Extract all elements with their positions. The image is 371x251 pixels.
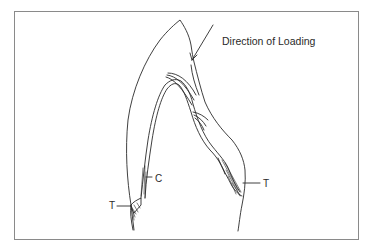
compression-label: C bbox=[155, 174, 162, 184]
direction-arrow bbox=[192, 25, 213, 60]
tooth-outer-outline bbox=[127, 20, 246, 231]
direction-of-loading-label: Direction of Loading bbox=[222, 36, 315, 47]
tension-label-right: T bbox=[263, 179, 269, 189]
tension-hatch-right bbox=[222, 160, 241, 196]
tension-label-left: T bbox=[109, 201, 115, 211]
